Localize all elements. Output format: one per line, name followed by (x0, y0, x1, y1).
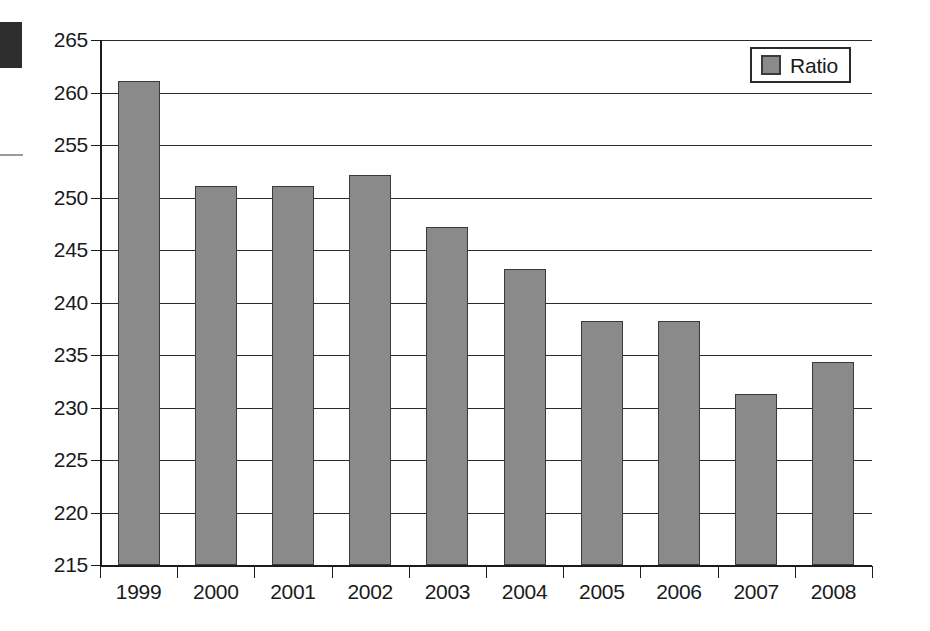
x-tick-2002 (409, 566, 410, 578)
x-tick-2004 (563, 566, 564, 578)
gridline-260 (100, 93, 872, 94)
x-tick-2005 (640, 566, 641, 578)
y-tick-265 (91, 40, 100, 41)
y-axis-label-250: 250 (30, 187, 88, 208)
y-axis-tick-labels: 215220225230235240245250255260265 (20, 0, 88, 631)
y-axis-label-235: 235 (30, 344, 88, 365)
bar-2001 (272, 186, 314, 565)
x-axis-label-2008: 2008 (795, 581, 872, 603)
bar-2007 (735, 394, 777, 565)
y-tick-220 (91, 513, 100, 514)
x-axis-label-2001: 2001 (254, 581, 331, 603)
y-tick-255 (91, 145, 100, 146)
x-tick-2008 (872, 566, 873, 578)
plot-area (100, 40, 872, 565)
y-axis-label-245: 245 (30, 239, 88, 260)
y-axis-label-220: 220 (30, 502, 88, 523)
x-axis-label-2004: 2004 (486, 581, 563, 603)
y-tick-215 (91, 565, 100, 566)
bar-2002 (349, 175, 391, 565)
y-axis-label-215: 215 (30, 554, 88, 575)
bar-1999 (118, 81, 160, 565)
y-tick-245 (91, 250, 100, 251)
x-tick-1999 (177, 566, 178, 578)
x-axis-label-1999: 1999 (100, 581, 177, 603)
y-axis-label-255: 255 (30, 134, 88, 155)
legend-label-ratio: Ratio (790, 55, 838, 76)
y-tick-225 (91, 460, 100, 461)
bar-2008 (812, 362, 854, 565)
y-tick-260 (91, 93, 100, 94)
x-axis-label-2000: 2000 (177, 581, 254, 603)
x-tick-origin (100, 566, 101, 578)
x-tick-2001 (332, 566, 333, 578)
bar-2005 (581, 321, 623, 565)
x-axis-label-2007: 2007 (718, 581, 795, 603)
y-axis-label-240: 240 (30, 292, 88, 313)
y-tick-230 (91, 408, 100, 409)
y-tick-250 (91, 198, 100, 199)
x-tick-2003 (486, 566, 487, 578)
chart-legend: Ratio (750, 47, 851, 83)
gridline-265 (100, 40, 872, 41)
y-axis-label-265: 265 (30, 29, 88, 50)
bar-2006 (658, 321, 700, 565)
y-axis-label-230: 230 (30, 397, 88, 418)
x-axis-label-2005: 2005 (563, 581, 640, 603)
y-axis-label-260: 260 (30, 82, 88, 103)
y-tick-235 (91, 355, 100, 356)
y-axis-line (100, 40, 102, 567)
x-axis-label-2006: 2006 (640, 581, 717, 603)
y-axis-label-225: 225 (30, 449, 88, 470)
bar-chart: 215220225230235240245250255260265 Ratio … (0, 0, 930, 631)
gridline-255 (100, 145, 872, 146)
x-tick-2000 (254, 566, 255, 578)
bar-2003 (426, 227, 468, 565)
x-axis-label-2003: 2003 (409, 581, 486, 603)
y-tick-240 (91, 303, 100, 304)
bar-2004 (504, 269, 546, 565)
x-tick-2007 (795, 566, 796, 578)
bar-2000 (195, 186, 237, 565)
legend-swatch-ratio (761, 55, 781, 75)
x-axis-label-2002: 2002 (332, 581, 409, 603)
x-tick-2006 (718, 566, 719, 578)
